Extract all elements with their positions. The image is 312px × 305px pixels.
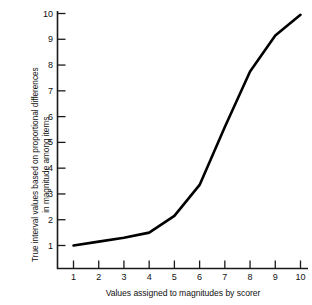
- x-axis-label: Values assigned to magnitudes by scorer: [57, 288, 309, 298]
- x-axis-tick-label: 3: [113, 272, 135, 282]
- axis-spines: [58, 11, 309, 269]
- x-axis-tick-label: 2: [88, 272, 110, 282]
- plot-area: [0, 0, 312, 305]
- x-axis-tick-label: 5: [163, 272, 185, 282]
- x-axis-tick-label: 4: [138, 272, 160, 282]
- x-axis-tick-label: 7: [214, 272, 236, 282]
- x-axis-tick-label: 8: [239, 272, 261, 282]
- x-axis-tick-marks: [74, 261, 301, 269]
- x-axis-tick-label: 1: [63, 272, 85, 282]
- x-axis-tick-label: 6: [189, 272, 211, 282]
- data-line-series-1: [74, 15, 301, 246]
- chart-figure: True interval values based on proportion…: [0, 0, 312, 305]
- y-axis-tick-marks: [58, 14, 66, 246]
- x-axis-tick-label: 10: [290, 272, 312, 282]
- x-axis-tick-labels: 12345678910: [0, 272, 312, 286]
- x-axis-tick-label: 9: [264, 272, 286, 282]
